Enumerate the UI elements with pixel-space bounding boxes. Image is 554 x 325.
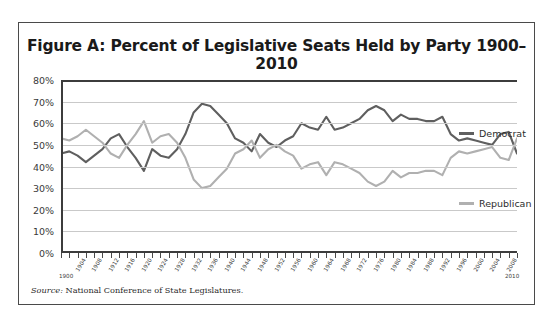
x-tick-label-1988: 1988 (422, 257, 434, 272)
gridline-80 (61, 80, 517, 82)
x-tick-label-1920: 1920 (140, 257, 152, 272)
legend-label-republican: Republican (479, 198, 531, 209)
x-tick-label-1936: 1936 (207, 257, 219, 272)
x-tick-1960 (310, 253, 311, 258)
x-tick-1982 (401, 253, 402, 258)
x-tick-1920 (144, 253, 145, 258)
x-tick-1918 (136, 253, 137, 258)
gridline-50 (61, 145, 517, 146)
x-axis-edge-label-2010: 2010 (505, 273, 519, 279)
y-tick-label-50: 50% (33, 139, 54, 150)
x-tick-1976 (376, 253, 377, 258)
x-tick-label-1948: 1948 (256, 257, 268, 272)
x-tick-1996 (459, 253, 460, 258)
x-tick-label-1928: 1928 (174, 257, 186, 272)
x-tick-1916 (127, 253, 128, 258)
x-tick-label-1972: 1972 (356, 257, 368, 272)
legend-label-democrat: Democrat (479, 128, 526, 139)
x-tick-2006 (500, 253, 501, 258)
x-tick-1936 (210, 253, 211, 258)
x-tick-1912 (111, 253, 112, 258)
x-tick-label-2008: 2008 (505, 257, 517, 272)
x-tick-label-1940: 1940 (223, 257, 235, 272)
y-tick-label-70: 70% (33, 96, 54, 107)
gridline-10 (61, 231, 517, 232)
x-tick-label-1996: 1996 (455, 257, 467, 272)
x-tick-1938 (219, 253, 220, 258)
x-tick-1998 (467, 253, 468, 258)
x-tick-1980 (393, 253, 394, 258)
x-tick-1994 (451, 253, 452, 258)
chart-plot-area (61, 80, 517, 253)
gridline-60 (61, 123, 517, 124)
legend-swatch-democrat (459, 132, 474, 135)
x-tick-1940 (227, 253, 228, 258)
x-tick-label-1980: 1980 (389, 257, 401, 272)
x-tick-1972 (359, 253, 360, 258)
x-tick-label-1992: 1992 (439, 257, 451, 272)
page-title: Figure A: Percent of Legislative Seats H… (19, 37, 534, 73)
x-tick-label-1932: 1932 (190, 257, 202, 272)
x-tick-label-1964: 1964 (323, 257, 335, 272)
x-tick-1900 (61, 253, 62, 258)
x-tick-1970 (351, 253, 352, 258)
gridline-40 (61, 167, 517, 168)
x-tick-1930 (185, 253, 186, 258)
gridline-70 (61, 102, 517, 103)
x-tick-label-1960: 1960 (306, 257, 318, 272)
y-tick-label-30: 30% (33, 183, 54, 194)
x-tick-2008 (509, 253, 510, 258)
y-axis-line (61, 80, 63, 253)
source-label: Source: (31, 285, 63, 295)
x-tick-1992 (442, 253, 443, 258)
legend-item-republican: Republican (459, 198, 531, 209)
x-tick-1948 (260, 253, 261, 258)
gridline-30 (61, 188, 517, 189)
y-tick-label-60: 60% (33, 118, 54, 129)
legend-item-democrat: Democrat (459, 128, 526, 139)
source-note: Source: National Conference of State Leg… (31, 285, 243, 295)
x-tick-1906 (86, 253, 87, 258)
y-tick-label-20: 20% (33, 204, 54, 215)
x-tick-1966 (335, 253, 336, 258)
figure-frame: Figure A: Percent of Legislative Seats H… (18, 22, 535, 305)
y-tick-label-40: 40% (33, 161, 54, 172)
x-tick-1954 (285, 253, 286, 258)
x-tick-2000 (476, 253, 477, 258)
x-tick-1902 (69, 253, 70, 258)
x-tick-1978 (384, 253, 385, 258)
x-tick-1950 (268, 253, 269, 258)
x-tick-label-1952: 1952 (273, 257, 285, 272)
x-tick-1974 (368, 253, 369, 258)
x-tick-1928 (177, 253, 178, 258)
x-tick-1990 (434, 253, 435, 258)
x-tick-1984 (409, 253, 410, 258)
x-tick-label-1916: 1916 (124, 257, 136, 272)
x-tick-label-1956: 1956 (290, 257, 302, 272)
x-tick-label-1904: 1904 (74, 257, 86, 272)
x-tick-1934 (202, 253, 203, 258)
x-axis-ticks: 1904190819121916192019241928193219361940… (61, 253, 517, 259)
chart-plot-wrapper: 0%10%20%30%40%50%60%70%80% 1904190819121… (61, 80, 517, 276)
x-tick-label-1984: 1984 (406, 257, 418, 272)
x-tick-1932 (194, 253, 195, 258)
x-tick-label-1976: 1976 (373, 257, 385, 272)
x-tick-label-1968: 1968 (339, 257, 351, 272)
x-tick-1924 (160, 253, 161, 258)
x-tick-1904 (78, 253, 79, 258)
y-tick-label-0: 0% (39, 248, 54, 259)
x-tick-1910 (102, 253, 103, 258)
legend-swatch-republican (459, 202, 474, 205)
x-tick-label-1924: 1924 (157, 257, 169, 272)
x-tick-2010 (517, 253, 518, 258)
x-tick-1956 (293, 253, 294, 258)
x-tick-2002 (484, 253, 485, 258)
x-tick-label-1912: 1912 (107, 257, 119, 272)
x-tick-1952 (277, 253, 278, 258)
x-tick-1926 (169, 253, 170, 258)
x-tick-1964 (326, 253, 327, 258)
x-tick-label-1944: 1944 (240, 257, 252, 272)
x-tick-1968 (343, 253, 344, 258)
x-axis-edge-label-1900: 1900 (59, 273, 73, 279)
x-tick-1942 (235, 253, 236, 258)
